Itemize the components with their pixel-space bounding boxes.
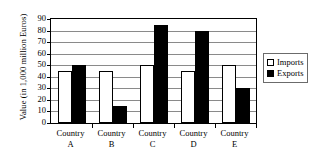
legend-item-exports: Exports bbox=[267, 68, 303, 79]
y-axis-tick-labels: 0102030405060708090 bbox=[22, 13, 46, 128]
x-axis-category-label: CountryA bbox=[50, 128, 91, 150]
x-axis-category-label: CountryC bbox=[132, 128, 173, 150]
y-axis-tick-label: 30 bbox=[22, 83, 46, 92]
bar-exports-country-d bbox=[195, 31, 209, 123]
hollow-square-icon bbox=[267, 59, 274, 66]
x-axis-category-labels: CountryACountryBCountryCCountryDCountryE bbox=[50, 128, 255, 162]
legend-label: Imports bbox=[277, 58, 303, 67]
category-label-line1: Country bbox=[173, 128, 214, 139]
category-label-line2: B bbox=[91, 139, 132, 150]
bar-imports-country-d bbox=[181, 71, 195, 123]
bar-imports-country-a bbox=[58, 71, 72, 123]
x-axis-category-label: CountryB bbox=[91, 128, 132, 150]
bar-chart-figure: Value (in 1,000 million Euros) 010203040… bbox=[0, 0, 324, 165]
category-label-line2: A bbox=[50, 139, 91, 150]
x-axis-category-label: CountryD bbox=[173, 128, 214, 150]
bar-exports-country-a bbox=[72, 65, 86, 123]
chart-legend: ImportsExports bbox=[263, 53, 308, 83]
y-axis-tick-label: 10 bbox=[22, 106, 46, 115]
bar-exports-country-c bbox=[154, 25, 168, 123]
bar-imports-country-c bbox=[140, 65, 154, 123]
bar-imports-country-b bbox=[99, 71, 113, 123]
bar-exports-country-b bbox=[113, 106, 127, 123]
y-axis-tick-label: 70 bbox=[22, 37, 46, 46]
bar-imports-country-e bbox=[222, 65, 236, 123]
y-axis-tick-label: 80 bbox=[22, 25, 46, 34]
category-label-line1: Country bbox=[132, 128, 173, 139]
x-axis-category-label: CountryE bbox=[214, 128, 255, 150]
category-label-line1: Country bbox=[91, 128, 132, 139]
bar-exports-country-e bbox=[236, 88, 250, 123]
category-label-line1: Country bbox=[50, 128, 91, 139]
category-label-line2: D bbox=[173, 139, 214, 150]
category-label-line2: C bbox=[132, 139, 173, 150]
filled-square-icon bbox=[267, 70, 274, 77]
legend-label: Exports bbox=[277, 69, 303, 78]
y-axis-tick-label: 40 bbox=[22, 71, 46, 80]
legend-item-imports: Imports bbox=[267, 57, 303, 68]
y-axis-tick-label: 0 bbox=[22, 118, 46, 127]
y-axis-tick-label: 50 bbox=[22, 60, 46, 69]
category-label-line2: E bbox=[214, 139, 255, 150]
bars-layer bbox=[51, 19, 256, 123]
plot-area bbox=[50, 18, 257, 124]
y-axis-tick-label: 20 bbox=[22, 94, 46, 103]
y-axis-tick-label: 60 bbox=[22, 48, 46, 57]
x-axis-tick-mark bbox=[256, 123, 257, 128]
y-axis-tick-label: 90 bbox=[22, 14, 46, 23]
category-label-line1: Country bbox=[214, 128, 255, 139]
